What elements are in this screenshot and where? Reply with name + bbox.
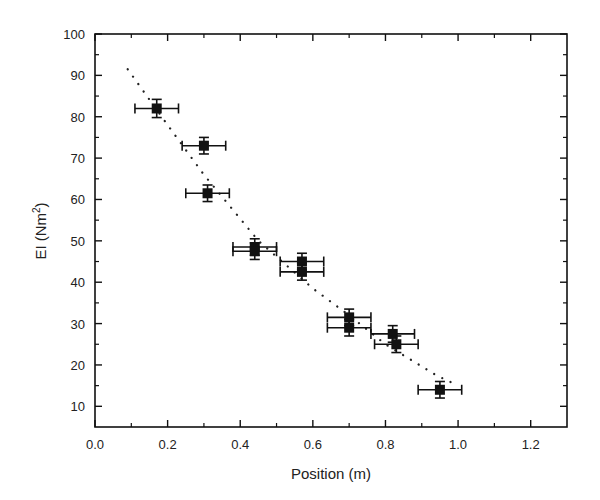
data-point [182, 137, 226, 154]
x-axis-label: Position (m) [291, 465, 371, 482]
square-marker [435, 385, 445, 395]
y-tick-label: 20 [71, 358, 85, 373]
x-tick-label: 0.0 [86, 437, 104, 452]
square-marker [297, 267, 307, 277]
data-point [186, 185, 230, 202]
y-tick-label: 30 [71, 317, 85, 332]
fit-curve [128, 69, 458, 385]
y-tick-label: 100 [63, 27, 85, 42]
x-tick-label: 0.6 [304, 437, 322, 452]
x-tick-label: 0.2 [159, 437, 177, 452]
square-marker [203, 188, 213, 198]
data-points [135, 99, 462, 398]
y-tick-label: 80 [71, 110, 85, 125]
data-point [375, 336, 419, 353]
y-axis: 102030405060708090100 [63, 27, 567, 414]
square-marker [199, 141, 209, 151]
square-marker [391, 339, 401, 349]
data-point [233, 243, 277, 260]
y-tick-label: 40 [71, 275, 85, 290]
x-axis: 0.00.20.40.60.81.01.2 [86, 34, 540, 452]
x-tick-label: 0.8 [376, 437, 394, 452]
fit-dotted-line [128, 69, 458, 385]
chart: 0.00.20.40.60.81.01.2 102030405060708090… [0, 0, 600, 500]
y-tick-label: 90 [71, 68, 85, 83]
x-tick-label: 0.4 [231, 437, 249, 452]
data-point [418, 381, 462, 398]
data-point [135, 99, 179, 117]
square-marker [250, 246, 260, 256]
y-axis-label: EI (Nm2) [31, 202, 49, 259]
y-tick-label: 60 [71, 192, 85, 207]
x-tick-label: 1.2 [522, 437, 540, 452]
y-tick-label: 70 [71, 151, 85, 166]
x-tick-label: 1.0 [449, 437, 467, 452]
square-marker [344, 323, 354, 333]
data-point [327, 319, 371, 336]
data-point [280, 264, 324, 281]
y-tick-label: 10 [71, 399, 85, 414]
square-marker [152, 103, 162, 113]
plot-border [95, 34, 567, 427]
plot-area [95, 34, 567, 427]
y-tick-label: 50 [71, 234, 85, 249]
